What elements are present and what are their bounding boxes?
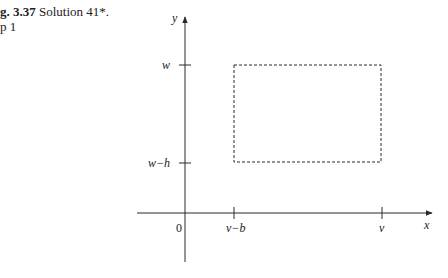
y-tick-label-w-minus-h: w−h — [148, 156, 170, 170]
x-tick-label-v: v — [379, 221, 385, 235]
x-tick-label-v-minus-b: v−b — [226, 221, 245, 235]
dashed-rectangle — [234, 65, 381, 162]
x-axis-label: x — [423, 218, 430, 232]
y-axis-label: y — [171, 11, 178, 25]
y-tick-label-w: w — [162, 58, 170, 72]
origin-label: 0 — [176, 221, 182, 235]
coordinate-diagram: y x 0 w w−h v−b v — [0, 0, 448, 278]
